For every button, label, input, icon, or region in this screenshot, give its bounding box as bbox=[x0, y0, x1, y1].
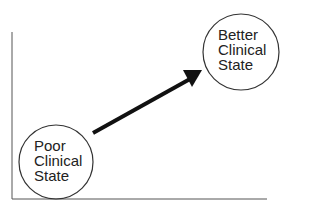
arrow-head-icon bbox=[183, 70, 202, 87]
poor-state-line-2: Clinical bbox=[34, 153, 82, 168]
better-state-label: Better Clinical State bbox=[218, 27, 266, 72]
arrow-shaft bbox=[93, 79, 190, 133]
poor-state-label: Poor Clinical State bbox=[34, 138, 82, 183]
better-state-line-3: State bbox=[218, 57, 266, 72]
poor-state-line-3: State bbox=[34, 168, 82, 183]
poor-state-line-1: Poor bbox=[34, 138, 82, 153]
better-state-line-2: Clinical bbox=[218, 42, 266, 57]
better-state-line-1: Better bbox=[218, 27, 266, 42]
